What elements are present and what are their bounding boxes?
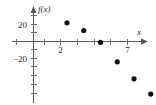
x-axis-title: x: [136, 27, 141, 37]
y-tick-label-neg20: −20: [13, 54, 28, 64]
plot-canvas: 20 −20 f(x) 2 7 x: [0, 0, 156, 105]
x-axis-arrow-icon: [141, 39, 148, 45]
x-tick-label-7: 7: [125, 45, 130, 55]
y-axis-arrow-icon: [31, 6, 37, 13]
data-point: [98, 40, 103, 45]
data-point: [148, 91, 153, 96]
data-point: [81, 28, 86, 33]
y-axis-group: 20 −20 f(x): [13, 4, 51, 103]
scatter-plot-figure: 20 −20 f(x) 2 7 x: [0, 0, 156, 105]
data-point: [115, 59, 120, 64]
x-axis-group: 2 7 x: [12, 27, 148, 55]
data-point: [64, 20, 69, 25]
y-tick-label-20: 20: [18, 20, 28, 30]
x-tick-label-2: 2: [58, 45, 63, 55]
data-point: [131, 76, 136, 81]
y-axis-title: f(x): [38, 4, 51, 14]
